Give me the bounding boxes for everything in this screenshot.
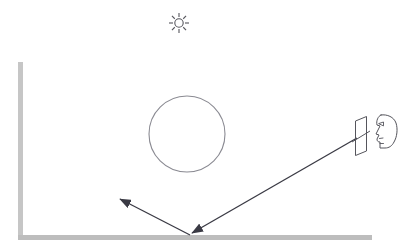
sun-ray <box>172 27 175 30</box>
object-circle <box>149 96 225 172</box>
optics-diagram-canvas: Light ray reflection optics diagram <box>0 0 410 250</box>
mouth-line <box>380 138 384 139</box>
eye-icon <box>379 122 384 126</box>
sun-icon <box>169 13 189 33</box>
sun-ray <box>183 16 186 19</box>
sun-ray <box>172 16 175 19</box>
head-profile-outline <box>376 115 397 148</box>
optics-diagram-svg <box>0 0 410 250</box>
observer-head <box>376 115 397 148</box>
mirror-axis-line <box>352 131 370 142</box>
reflected-ray <box>120 199 190 235</box>
horizontal-floor <box>18 235 372 240</box>
incident-ray <box>192 138 357 233</box>
sun-ray <box>183 27 186 30</box>
sun-rays <box>169 13 189 33</box>
vertical-wall <box>18 62 23 240</box>
mirror-plane <box>352 117 370 156</box>
